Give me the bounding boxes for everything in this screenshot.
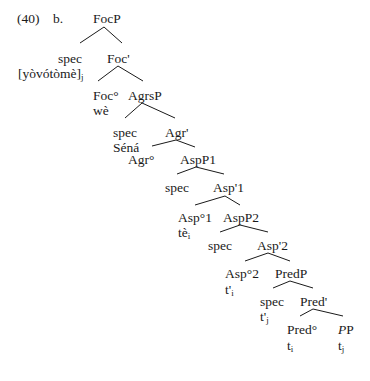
tree-branch (152, 140, 176, 146)
node-label: spec (208, 238, 232, 253)
tree-branch (313, 309, 343, 316)
node-index: i (291, 344, 294, 354)
node-label: Asp°2 (225, 266, 259, 281)
tree-node-agr0: Agr° (128, 152, 154, 167)
node-label: AspP2 (223, 210, 259, 225)
tree-node-pred0w: ti (287, 338, 293, 353)
node-label: wè (93, 103, 109, 118)
node-label: spec (58, 51, 82, 66)
tree-node-aspp2: AspP2 (223, 210, 259, 225)
tree-branch (104, 27, 122, 43)
node-label: Asp'1 (213, 180, 244, 195)
node-index: j (266, 315, 269, 325)
tree-node-pp: PP (338, 322, 354, 337)
tree-branch (220, 225, 240, 232)
tree-branch (195, 196, 225, 205)
tree-branch (118, 66, 143, 81)
node-label: P (346, 322, 354, 337)
node-label: AgrsP (128, 88, 162, 103)
tree-node-predbar: Pred' (300, 294, 327, 309)
tree-branch (98, 66, 118, 81)
tree-branch (176, 140, 195, 147)
tree-node-asp02: Asp°2 (225, 266, 259, 281)
tree-node-aspbar2: Asp'2 (257, 238, 288, 253)
tree-node-spec3: spec (165, 180, 189, 195)
tree-node-asp02w: t'i (225, 282, 234, 297)
node-label: Agr' (165, 125, 188, 140)
tree-branch (245, 253, 268, 261)
node-label: tè (178, 225, 188, 240)
node-index: j (342, 344, 345, 354)
node-label: Foc' (107, 51, 130, 66)
tree-node-predp: PredP (275, 266, 307, 281)
tree-branch (142, 103, 175, 118)
tree-node-foc0: Foc° (93, 88, 119, 103)
node-label: FocP (93, 11, 121, 26)
tree-node-ppw: tj (338, 338, 344, 353)
tree-node-asp01: Asp°1 (178, 210, 212, 225)
node-label: Foc° (93, 88, 119, 103)
tree-node-pred0: Pred° (287, 322, 317, 337)
node-label: Pred' (300, 294, 327, 309)
tree-node-spec2: spec (113, 125, 137, 140)
tree-branch (290, 281, 313, 288)
node-prefix: P (338, 322, 346, 337)
node-label: Asp'2 (257, 238, 288, 253)
tree-node-asp01w: tèi (178, 225, 190, 240)
node-label: spec (165, 180, 189, 195)
node-label: PredP (275, 266, 307, 281)
tree-branch (196, 167, 224, 174)
tree-node-spec5w: t'j (260, 309, 269, 324)
tree-node-spec4: spec (208, 238, 232, 253)
node-label: spec (260, 294, 284, 309)
node-label: AspP1 (180, 152, 216, 167)
tree-node-focp: FocP (93, 11, 121, 26)
tree-branch (268, 253, 290, 261)
node-index: j (81, 72, 84, 82)
tree-branch (177, 167, 196, 174)
tree-node-spec1w: [yòvótòmè]j (18, 66, 84, 81)
node-label: spec (113, 125, 137, 140)
tree-node-agrbar: Agr' (165, 125, 188, 140)
tree-node-aspp1: AspP1 (180, 152, 216, 167)
node-label: [yòvótòmè] (18, 66, 81, 81)
tree-branch (225, 196, 240, 205)
syntax-tree: (40) b. FocPspec[yòvótòmè]jFoc'Foc°wèAgr… (0, 0, 370, 381)
tree-node-focbar: Foc' (107, 51, 130, 66)
node-label: Pred° (287, 322, 317, 337)
tree-node-spec1: spec (58, 51, 82, 66)
tree-branch (240, 225, 268, 232)
tree-branch (80, 27, 104, 43)
node-index: i (231, 288, 234, 298)
tree-branch (273, 281, 290, 288)
node-label: Asp°1 (178, 210, 212, 225)
tree-node-spec5: spec (260, 294, 284, 309)
node-index: i (188, 231, 191, 241)
tree-node-agrsp: AgrsP (128, 88, 162, 103)
tree-node-foc0w: wè (93, 103, 109, 118)
tree-branch (125, 103, 142, 118)
tree-branch (300, 309, 313, 316)
node-label: Agr° (128, 152, 154, 167)
tree-node-aspbar1: Asp'1 (213, 180, 244, 195)
